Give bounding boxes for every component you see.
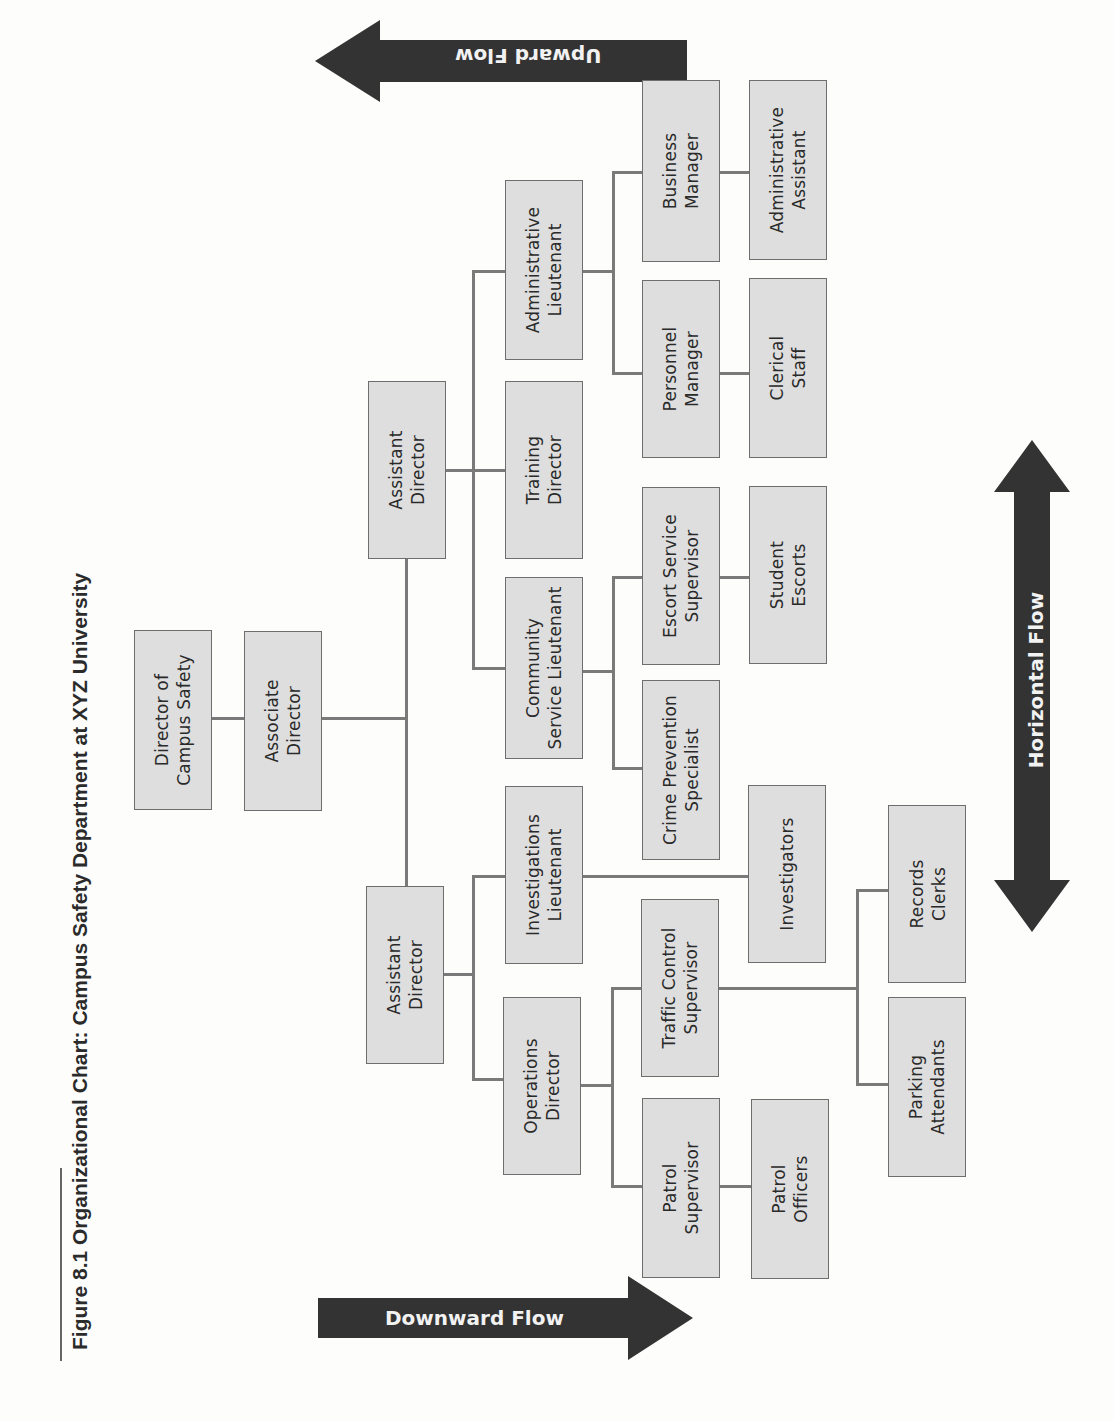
figure-title: Figure 8.1 Organizational Chart: Campus … xyxy=(68,573,92,1350)
node-label: Operations Director xyxy=(520,1038,564,1133)
connector-line xyxy=(472,667,506,670)
title-rule xyxy=(60,1168,62,1361)
connector-line xyxy=(405,557,408,887)
node-administrative-assistant: Administrative Assistant xyxy=(749,80,827,260)
node-business-manager: Business Manager xyxy=(642,80,720,262)
node-label: Assistant Director xyxy=(385,430,429,509)
node-escort-service-supervisor: Escort Service Supervisor xyxy=(642,487,720,665)
node-assistant-director-bottom: Assistant Director xyxy=(366,886,444,1064)
connector-line xyxy=(611,1185,644,1188)
connector-line xyxy=(211,717,245,720)
connector-line xyxy=(856,1083,889,1086)
connector-line xyxy=(718,171,749,174)
connector-line xyxy=(611,987,614,1187)
node-associate-director: Associate Director xyxy=(244,631,322,811)
connector-line xyxy=(612,576,643,579)
connector-line xyxy=(472,270,475,670)
node-label: Associate Director xyxy=(261,679,305,762)
node-label: Personnel Manager xyxy=(659,327,703,412)
upward-flow-label: Upward Flow xyxy=(455,44,601,68)
node-label: Patrol Supervisor xyxy=(659,1142,703,1235)
connector-line xyxy=(718,372,749,375)
node-records-clerks: Records Clerks xyxy=(888,805,966,983)
node-label: Training Director xyxy=(522,435,566,505)
node-label: Investigations Lieutenant xyxy=(522,814,566,936)
node-label: Business Manager xyxy=(659,133,703,210)
node-operations-director: Operations Director xyxy=(503,997,581,1175)
node-training-director: Training Director xyxy=(505,381,583,559)
figure-page: Figure 8.1 Organizational Chart: Campus … xyxy=(0,0,1114,1421)
connector-line xyxy=(472,875,475,1080)
node-label: Student Escorts xyxy=(766,541,810,609)
connector-line xyxy=(612,171,615,374)
node-administrative-lieutenant: Administrative Lieutenant xyxy=(505,180,583,360)
connector-line xyxy=(472,270,506,273)
connector-line xyxy=(580,1084,613,1087)
node-label: Escort Service Supervisor xyxy=(659,514,703,638)
connector-line xyxy=(612,576,615,769)
node-label: Administrative Lieutenant xyxy=(522,207,566,334)
node-label: Patrol Officers xyxy=(768,1155,812,1222)
node-parking-attendants: Parking Attendants xyxy=(888,997,966,1177)
node-label: Clerical Staff xyxy=(766,336,810,401)
node-student-escorts: Student Escorts xyxy=(749,486,827,664)
connector-line xyxy=(718,576,749,579)
node-investigators: Investigators xyxy=(748,785,826,963)
horizontal-flow-label: Horizontal Flow xyxy=(1024,592,1048,768)
connector-line xyxy=(612,767,643,770)
connector-line xyxy=(856,889,889,892)
node-label: Assistant Director xyxy=(383,935,427,1014)
node-label: Community Service Lieutenant xyxy=(522,586,566,749)
connector-line xyxy=(581,875,749,878)
node-label: Investigators xyxy=(776,817,798,930)
node-traffic-control-supervisor: Traffic Control Supervisor xyxy=(641,899,719,1077)
connector-line xyxy=(612,171,643,174)
connector-line xyxy=(444,973,474,976)
node-personnel-manager: Personnel Manager xyxy=(642,280,720,458)
node-investigations-lieutenant: Investigations Lieutenant xyxy=(505,786,583,964)
node-label: Administrative Assistant xyxy=(766,107,810,234)
connector-line xyxy=(321,717,407,720)
connector-line xyxy=(718,987,858,990)
node-patrol-supervisor: Patrol Supervisor xyxy=(642,1098,720,1278)
connector-line xyxy=(582,670,615,673)
node-label: Crime Prevention Specialist xyxy=(659,695,703,845)
connector-line xyxy=(856,889,859,1085)
downward-flow-label: Downward Flow xyxy=(385,1306,564,1330)
node-label: Traffic Control Supervisor xyxy=(658,927,702,1048)
node-director-of-campus-safety: Director of Campus Safety xyxy=(134,630,212,810)
node-label: Parking Attendants xyxy=(905,1039,949,1134)
connector-line xyxy=(472,875,506,878)
connector-line xyxy=(612,372,643,375)
node-label: Records Clerks xyxy=(905,860,949,929)
node-assistant-director-top: Assistant Director xyxy=(368,381,446,559)
connector-line xyxy=(581,270,614,273)
node-crime-prevention-specialist: Crime Prevention Specialist xyxy=(642,680,720,860)
node-clerical-staff: Clerical Staff xyxy=(749,278,827,458)
connector-line xyxy=(444,469,506,472)
node-label: Director of Campus Safety xyxy=(151,654,195,786)
connector-line xyxy=(719,1185,751,1188)
connector-line xyxy=(611,987,644,990)
node-community-service-lieutenant: Community Service Lieutenant xyxy=(505,577,583,759)
connector-line xyxy=(472,1078,506,1081)
node-patrol-officers: Patrol Officers xyxy=(751,1099,829,1279)
